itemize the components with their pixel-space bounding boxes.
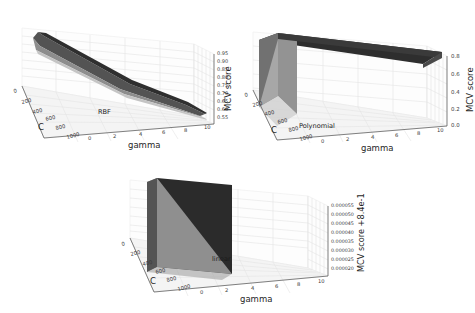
linear-ytick-5: 10 — [318, 278, 325, 284]
linear-ytick-4: 8 — [297, 281, 300, 287]
poly-ytick-0: 0 — [321, 138, 324, 144]
subplot-linear[interactable]: 0 200 400 600 800 1000 C 0 2 4 6 8 10 — [110, 160, 368, 313]
rbf-z-axis-title: MCV score — [223, 66, 233, 111]
poly-ztick-4: 0.0 — [451, 122, 460, 128]
poly-z-axis-title: MCV score — [465, 67, 475, 112]
linear-ytick-1: 2 — [225, 287, 228, 293]
poly-ztick-1: 0.6 — [451, 71, 460, 77]
figure-canvas: 0 200 400 600 800 1000 C 0 2 4 6 8 10 — [0, 0, 475, 313]
rbf-y-axis-title: gamma — [128, 140, 160, 150]
rbf-x-axis-title: C — [38, 122, 44, 132]
poly-z-axis[interactable]: 0.8 0.6 0.4 0.2 0.0 MCV score — [451, 53, 475, 128]
poly-xtick-0: 0 — [244, 91, 249, 98]
subplot-polynomial[interactable]: 0 200 400 600 800 1000 C 0 2 4 6 8 10 — [237, 6, 475, 156]
linear-ztick-5: 0.000030 — [331, 248, 354, 253]
linear-ytick-3: 6 — [275, 283, 278, 289]
poly-ztick-0: 0.8 — [451, 53, 460, 59]
linear-panel-label: linear — [212, 255, 231, 263]
rbf-ytick-0: 0 — [88, 135, 91, 141]
subplot-rbf[interactable]: 0 200 400 600 800 1000 C 0 2 4 6 8 10 — [0, 6, 232, 156]
poly-ztick-2: 0.4 — [451, 89, 460, 95]
linear-surface — [147, 178, 232, 280]
rbf-ztick-0: 0.95 — [217, 50, 228, 56]
poly-ytick-4: 8 — [417, 130, 420, 136]
poly-ytick-1: 2 — [346, 136, 349, 142]
rbf-ytick-1: 2 — [113, 133, 116, 139]
poly-ytick-3: 6 — [395, 132, 398, 138]
linear-ztick-0: 0.000055 — [331, 203, 354, 208]
linear-xtick-0: 0 — [121, 240, 126, 247]
rbf-ztick-1: 0.90 — [217, 58, 228, 64]
linear-ztick-6: 0.000025 — [331, 257, 354, 262]
rbf-xtick-0: 0 — [13, 87, 18, 94]
poly-ytick-5: 10 — [437, 127, 444, 133]
rbf-ytick-4: 8 — [184, 127, 187, 133]
rbf-panel-label: RBF — [98, 108, 111, 116]
linear-ytick-0: 0 — [200, 289, 203, 295]
polynomial-panel-label: Polynomial — [299, 122, 335, 130]
linear-ztick-2: 0.000045 — [331, 221, 354, 226]
poly-ztick-3: 0.2 — [451, 106, 460, 112]
linear-ztick-3: 0.000040 — [331, 230, 354, 235]
rbf-ytick-5: 10 — [204, 124, 211, 130]
linear-x-axis-title: C — [150, 276, 156, 286]
linear-ztick-1: 0.000050 — [331, 212, 354, 217]
rbf-ytick-2: 4 — [139, 131, 143, 137]
linear-z-axis-title: MCV score +8.4e-1 — [356, 193, 366, 272]
linear-ztick-7: 0.000020 — [331, 266, 354, 271]
poly-x-axis-title: C — [271, 125, 277, 135]
linear-y-axis-title: gamma — [240, 294, 272, 304]
rbf-ztick-8: 0.55 — [217, 114, 228, 120]
poly-y-axis-title: gamma — [361, 143, 393, 153]
rbf-z-axis[interactable]: 0.95 0.90 0.85 0.80 0.75 0.70 0.65 0.60 … — [217, 50, 233, 120]
linear-z-axis[interactable]: 0.000055 0.000050 0.000045 0.000040 0.00… — [331, 193, 366, 272]
rbf-ytick-3: 6 — [162, 129, 165, 135]
linear-ztick-4: 0.000035 — [331, 239, 354, 244]
